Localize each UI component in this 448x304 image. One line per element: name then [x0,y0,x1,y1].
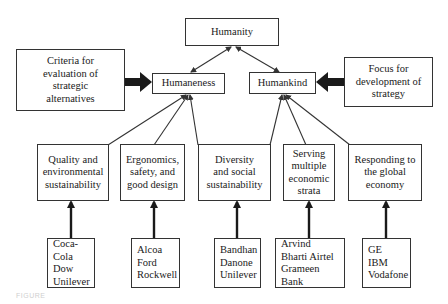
examples-quality-list: Coca-Cola Dow Unilever [53,238,94,288]
examples-diversity: Bandhan Danone Unilever [214,238,261,288]
node-humaneness: Humaneness [152,73,225,94]
node-humanity-label: Humanity [211,26,253,39]
link-humanity-humankind [236,47,279,72]
examples-ergonomics: Alcoa Ford Rockwell [131,238,180,288]
link-diversity-humankind [270,95,282,145]
examples-serving: Arvind Bharti Airtel Grameen Bank [275,238,345,288]
node-responding-label: Responding to the global economy [355,154,416,192]
node-serving: Serving multiple economic strata [283,144,335,201]
node-serving-label: Serving multiple economic strata [289,148,330,198]
examples-ergonomics-list: Alcoa Ford Rockwell [137,244,177,282]
figure-caption: FIGURE [16,292,45,299]
link-humanity-humaneness [191,47,231,72]
block-arrow-focus [316,72,344,92]
examples-responding: GE IBM Vodafone [362,238,411,288]
examples-serving-list: Arvind Bharti Airtel Grameen Bank [281,238,344,288]
node-humaneness-label: Humaneness [162,77,216,90]
examples-responding-list: GE IBM Vodafone [368,244,408,282]
node-humanity: Humanity [185,18,279,46]
node-responding: Responding to the global economy [348,144,422,201]
node-ergonomics: Ergonomics, safety, and good design [120,144,185,201]
block-arrow-criteria [125,72,152,92]
node-quality-label: Quality and environmental sustainability [43,154,104,192]
note-focus-label: Focus for development of strategy [356,63,422,101]
diagram-canvas: Humanity Criteria for evaluation of stra… [0,0,448,304]
note-focus: Focus for development of strategy [344,57,433,107]
examples-quality: Coca-Cola Dow Unilever [47,238,95,288]
link-ergonomics-humaneness [154,95,188,145]
node-ergonomics-label: Ergonomics, safety, and good design [126,154,179,192]
link-diversity-humaneness [190,95,198,145]
node-diversity-label: Diversity and social sustainability [207,154,263,192]
note-criteria-label: Criteria for evaluation of strategic alt… [43,55,98,105]
note-criteria: Criteria for evaluation of strategic alt… [16,49,125,111]
node-humankind-label: Humankind [258,77,308,90]
examples-diversity-list: Bandhan Danone Unilever [220,244,257,282]
node-humankind: Humankind [249,72,316,94]
node-diversity: Diversity and social sustainability [198,144,271,201]
node-quality: Quality and environmental sustainability [37,144,109,201]
